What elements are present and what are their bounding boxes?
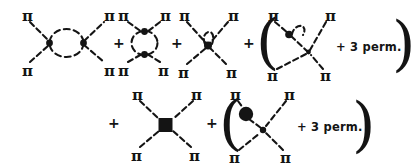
plus-operator: + [243, 35, 255, 51]
leg-label-pi: π [104, 62, 115, 80]
feynman-diagram-canvas: π π π π + π π π π + π [0, 0, 417, 167]
plus-operator: + [108, 115, 120, 131]
leg-label-pi: π [158, 62, 169, 80]
leg-label-pi: π [22, 7, 33, 25]
feynman-diagram-figure: π π π π + π π π π + π [0, 0, 417, 167]
leg-label-pi: π [191, 86, 202, 104]
vertex-center [204, 42, 212, 50]
leg-label-pi: π [189, 147, 200, 165]
leg-label-pi: π [118, 62, 129, 80]
vertex-square-blob [159, 118, 173, 132]
vertex-center [260, 127, 266, 133]
vertex-insertion [285, 31, 293, 39]
leg-label-pi: π [178, 64, 189, 82]
leg-label-pi: π [320, 67, 331, 85]
close-paren: ) [392, 8, 415, 78]
leg-label-pi: π [268, 7, 279, 25]
leg-label-pi: π [160, 7, 171, 25]
leg-label-pi: π [228, 7, 239, 25]
blob-insertion [239, 107, 253, 121]
leg-label-pi: π [131, 147, 142, 165]
close-paren: ) [352, 89, 375, 159]
vertex-center [306, 50, 311, 55]
leg-label-pi: π [179, 7, 190, 25]
leg-label-pi: π [226, 64, 237, 82]
leg-label-pi: π [325, 7, 336, 25]
leg-label-pi: π [284, 86, 295, 104]
vertex-right [80, 40, 87, 47]
leg-label-pi: π [118, 7, 129, 25]
leg-label-pi: π [280, 149, 291, 167]
plus-operator: + [171, 35, 183, 51]
leg-label-pi: π [230, 86, 241, 104]
plus-operator: + [206, 115, 218, 131]
leg-label-pi: π [22, 62, 33, 80]
plus-operator: + [113, 35, 125, 51]
vertex-top [141, 28, 148, 35]
vertex-left [46, 40, 53, 47]
leg-label-pi: π [267, 67, 278, 85]
leg-label-pi: π [229, 149, 240, 167]
leg-label-pi: π [104, 7, 115, 25]
leg-label-pi: π [132, 86, 143, 104]
vertex-bottom [141, 51, 148, 58]
